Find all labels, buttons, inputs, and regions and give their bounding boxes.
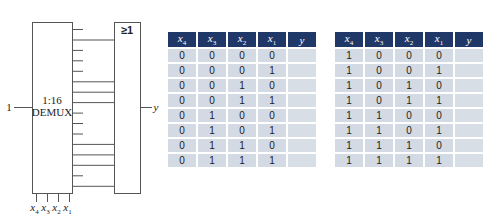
cell-y [455, 49, 483, 62]
cell-value: 1 [335, 94, 363, 107]
table-row: 0011 [168, 94, 316, 107]
cell-y [455, 94, 483, 107]
cell-value: 1 [395, 139, 423, 152]
cell-value: 0 [425, 109, 453, 122]
cell-value: 1 [335, 154, 363, 167]
cell-y [455, 154, 483, 167]
input-label: 1 [6, 101, 12, 113]
cell-value: 0 [395, 64, 423, 77]
cell-value: 0 [258, 109, 286, 122]
cell-value: 0 [198, 49, 226, 62]
table-header-row: x4x3x2x1y [168, 32, 316, 47]
table-row: 0001 [168, 64, 316, 77]
cell-value: 1 [335, 49, 363, 62]
demux-output-lines [72, 30, 114, 187]
cell-y [455, 79, 483, 92]
header-x3: x3 [365, 32, 393, 47]
cell-value: 1 [198, 109, 226, 122]
header-x4: x4 [168, 32, 196, 47]
header-x1: x1 [425, 32, 453, 47]
cell-value: 1 [365, 154, 393, 167]
cell-value: 0 [395, 109, 423, 122]
cell-value: 1 [258, 124, 286, 137]
cell-value: 0 [258, 79, 286, 92]
cell-value: 0 [168, 79, 196, 92]
cell-value: 1 [395, 79, 423, 92]
cell-value: 1 [258, 154, 286, 167]
table-row: 0100 [168, 109, 316, 122]
cell-value: 0 [198, 64, 226, 77]
cell-value: 0 [168, 124, 196, 137]
header-y: y [288, 32, 316, 47]
cell-y [288, 154, 316, 167]
cell-value: 0 [258, 139, 286, 152]
header-x4: x4 [335, 32, 363, 47]
cell-value: 0 [425, 49, 453, 62]
cell-value: 0 [198, 79, 226, 92]
cell-value: 0 [365, 94, 393, 107]
cell-value: 0 [258, 49, 286, 62]
header-x3: x3 [198, 32, 226, 47]
cell-value: 1 [425, 124, 453, 137]
cell-value: 0 [228, 109, 256, 122]
or-gate-label: ≥1 [121, 24, 133, 36]
demux-label-ratio: 1:16 [42, 94, 62, 106]
cell-y [288, 94, 316, 107]
cell-value: 1 [228, 154, 256, 167]
table-row: 1101 [335, 124, 483, 137]
cell-value: 1 [395, 154, 423, 167]
table-row: 1001 [335, 64, 483, 77]
cell-value: 1 [425, 154, 453, 167]
cell-value: 0 [425, 79, 453, 92]
cell-y [455, 139, 483, 152]
cell-value: 1 [335, 109, 363, 122]
table-row: 1111 [335, 154, 483, 167]
cell-value: 0 [395, 49, 423, 62]
truth-table-left: x4x3x2x1y 000000010010001101000101011001… [166, 30, 318, 169]
cell-value: 0 [365, 49, 393, 62]
table-row: 1000 [335, 49, 483, 62]
select-label-x4: x4 [29, 201, 39, 215]
cell-value: 0 [395, 124, 423, 137]
cell-y [288, 139, 316, 152]
table-row: 1110 [335, 139, 483, 152]
select-labels: x4x3x2x1 [29, 201, 72, 215]
cell-value: 0 [365, 64, 393, 77]
cell-value: 0 [168, 49, 196, 62]
cell-y [288, 49, 316, 62]
header-y: y [455, 32, 483, 47]
or-gate-block [115, 23, 141, 194]
cell-value: 0 [168, 139, 196, 152]
output-label: y [153, 101, 159, 113]
cell-y [288, 79, 316, 92]
table-row: 0111 [168, 154, 316, 167]
header-x2: x2 [395, 32, 423, 47]
cell-value: 1 [335, 139, 363, 152]
cell-value: 1 [335, 79, 363, 92]
cell-value: 1 [425, 64, 453, 77]
cell-value: 1 [258, 64, 286, 77]
table-row: 0010 [168, 79, 316, 92]
table-body: 10001001101010111100110111101111 [335, 49, 483, 167]
cell-y [455, 124, 483, 137]
cell-value: 1 [198, 154, 226, 167]
cell-y [455, 64, 483, 77]
cell-value: 1 [228, 79, 256, 92]
demux-label-name: DEMUX [32, 106, 72, 118]
cell-value: 0 [228, 64, 256, 77]
cell-value: 1 [335, 124, 363, 137]
cell-value: 0 [168, 94, 196, 107]
cell-value: 0 [168, 109, 196, 122]
cell-value: 0 [425, 139, 453, 152]
cell-y [288, 124, 316, 137]
cell-y [455, 109, 483, 122]
cell-value: 0 [228, 49, 256, 62]
cell-value: 1 [198, 124, 226, 137]
truth-table-right: x4x3x2x1y 100010011010101111001101111011… [333, 30, 485, 169]
cell-value: 0 [168, 64, 196, 77]
table-body: 00000001001000110100010101100111 [168, 49, 316, 167]
demux-or-circuit: 1:16 DEMUX 1 ≥1 y x4x3x2x1 [0, 0, 160, 215]
table-row: 1100 [335, 109, 483, 122]
cell-value: 1 [365, 139, 393, 152]
cell-value: 1 [335, 64, 363, 77]
